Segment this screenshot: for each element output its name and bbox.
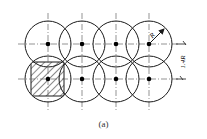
- spacing-label: 1.4R: [179, 55, 187, 69]
- figure-caption: (a): [0, 119, 207, 129]
